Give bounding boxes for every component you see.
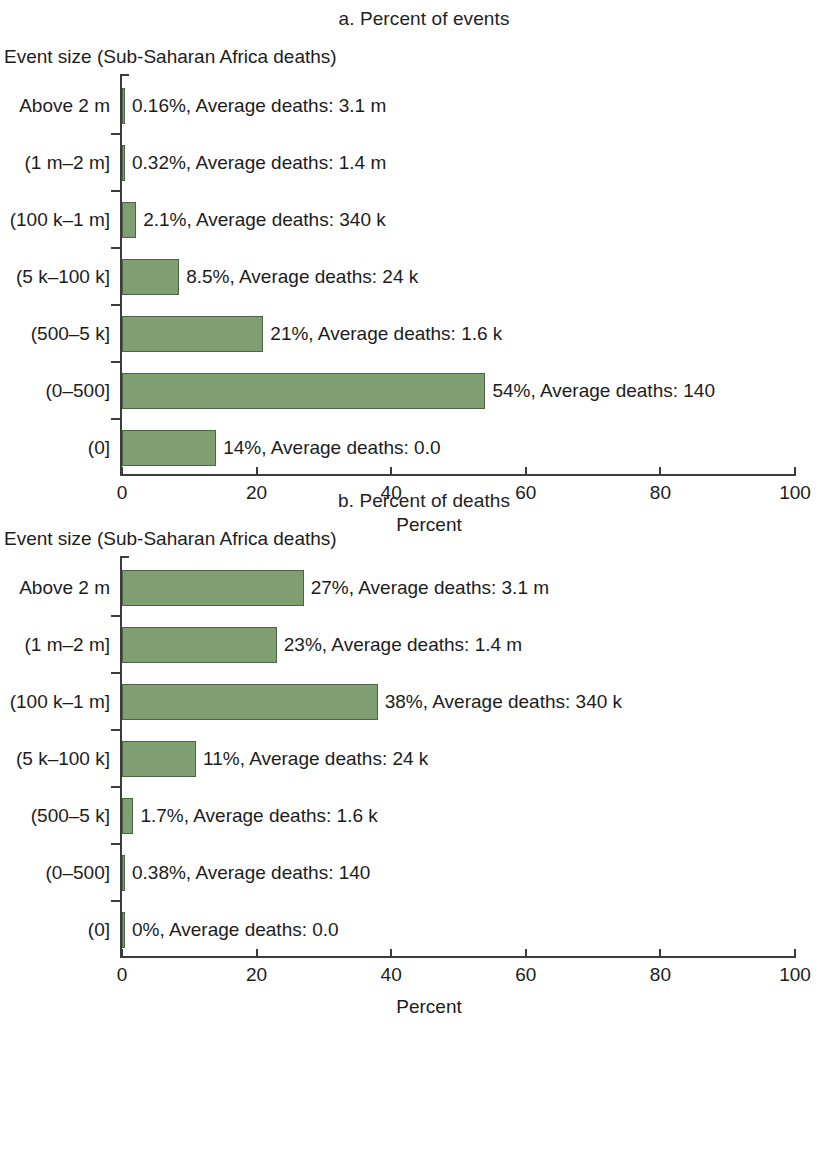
panel-percent-of-deaths: b. Percent of deaths Event size (Sub-Sah… (0, 482, 818, 964)
value-axis-tick (525, 467, 527, 476)
bar-row: (5 k–100 k]8.5%, Average deaths: 24 k (0, 248, 818, 305)
bar-row: (500–5 k]21%, Average deaths: 1.6 k (0, 305, 818, 362)
bar-value-label: 27%, Average deaths: 3.1 m (304, 577, 549, 599)
value-axis-tick (256, 467, 258, 476)
bar-row: Above 2 m0.16%, Average deaths: 3.1 m (0, 77, 818, 134)
bar (122, 259, 179, 295)
category-label: (0] (0, 919, 110, 941)
category-label: (100 k–1 m] (0, 209, 110, 231)
category-label: (5 k–100 k] (0, 266, 110, 288)
bar-value-label: 0.38%, Average deaths: 140 (125, 862, 370, 884)
bar-value-label: 54%, Average deaths: 140 (485, 380, 715, 402)
bar-value-label: 2.1%, Average deaths: 340 k (136, 209, 386, 231)
bar (122, 202, 136, 238)
panel-a-y-axis-title: Event size (Sub-Saharan Africa deaths) (0, 30, 818, 68)
bar (122, 798, 133, 834)
bar-row: (1 m–2 m]0.32%, Average deaths: 1.4 m (0, 134, 818, 191)
category-label: (500–5 k] (0, 323, 110, 345)
panel-a-category-axis-cap (120, 74, 129, 76)
value-axis-tick-label: 20 (246, 964, 267, 986)
category-label: Above 2 m (0, 95, 110, 117)
category-label: (500–5 k] (0, 805, 110, 827)
value-axis-tick (256, 949, 258, 958)
panel-b-x-axis-title: Percent (0, 996, 818, 1018)
value-axis-tick (121, 467, 123, 476)
value-axis-tick (121, 949, 123, 958)
bar (122, 741, 196, 777)
bar-row: (5 k–100 k]11%, Average deaths: 24 k (0, 730, 818, 787)
bar-value-label: 0%, Average deaths: 0.0 (125, 919, 339, 941)
bar (122, 373, 485, 409)
bar-value-label: 0.16%, Average deaths: 3.1 m (125, 95, 386, 117)
value-axis-tick-label: 100 (779, 964, 811, 986)
value-axis-tick-label: 40 (381, 964, 402, 986)
bar-value-label: 14%, Average deaths: 0.0 (216, 437, 440, 459)
panel-a-title: a. Percent of events (0, 0, 818, 30)
value-axis-tick-label: 60 (515, 964, 536, 986)
value-axis-tick (794, 949, 796, 958)
panel-b-title: b. Percent of deaths (0, 482, 818, 512)
bar-row: (1 m–2 m]23%, Average deaths: 1.4 m (0, 616, 818, 673)
bar-row: (100 k–1 m]2.1%, Average deaths: 340 k (0, 191, 818, 248)
bar (122, 627, 277, 663)
category-label: (1 m–2 m] (0, 634, 110, 656)
panel-b-y-axis-title: Event size (Sub-Saharan Africa deaths) (0, 512, 818, 550)
category-label: (100 k–1 m] (0, 691, 110, 713)
panel-a-plot-area: Percent Above 2 m0.16%, Average deaths: … (0, 74, 818, 482)
category-label: (1 m–2 m] (0, 152, 110, 174)
panel-b-category-axis-cap (120, 556, 129, 558)
bar (122, 570, 304, 606)
bar-value-label: 11%, Average deaths: 24 k (196, 748, 428, 770)
panel-b-plot-area: Percent Above 2 m27%, Average deaths: 3.… (0, 556, 818, 964)
value-axis-tick (525, 949, 527, 958)
bar-value-label: 21%, Average deaths: 1.6 k (263, 323, 502, 345)
value-axis-tick-label: 0 (117, 964, 128, 986)
value-axis-tick (794, 467, 796, 476)
bar-value-label: 38%, Average deaths: 340 k (378, 691, 622, 713)
value-axis-tick (390, 949, 392, 958)
value-axis-tick (659, 949, 661, 958)
bar-value-label: 0.32%, Average deaths: 1.4 m (125, 152, 386, 174)
bar-value-label: 23%, Average deaths: 1.4 m (277, 634, 522, 656)
bar-row: Above 2 m27%, Average deaths: 3.1 m (0, 559, 818, 616)
bar (122, 316, 263, 352)
bar-row: (500–5 k]1.7%, Average deaths: 1.6 k (0, 787, 818, 844)
category-label: (0–500] (0, 862, 110, 884)
category-label: (0–500] (0, 380, 110, 402)
value-axis-tick (659, 467, 661, 476)
bar-value-label: 8.5%, Average deaths: 24 k (179, 266, 418, 288)
bar-row: (100 k–1 m]38%, Average deaths: 340 k (0, 673, 818, 730)
bar-row: (0–500]54%, Average deaths: 140 (0, 362, 818, 419)
bar-row: (0–500]0.38%, Average deaths: 140 (0, 844, 818, 901)
category-label: Above 2 m (0, 577, 110, 599)
value-axis-tick-label: 80 (650, 964, 671, 986)
category-label: (5 k–100 k] (0, 748, 110, 770)
bar (122, 684, 378, 720)
panel-percent-of-events: a. Percent of events Event size (Sub-Sah… (0, 0, 818, 482)
bar (122, 430, 216, 466)
category-label: (0] (0, 437, 110, 459)
value-axis-tick (390, 467, 392, 476)
bar-value-label: 1.7%, Average deaths: 1.6 k (133, 805, 377, 827)
